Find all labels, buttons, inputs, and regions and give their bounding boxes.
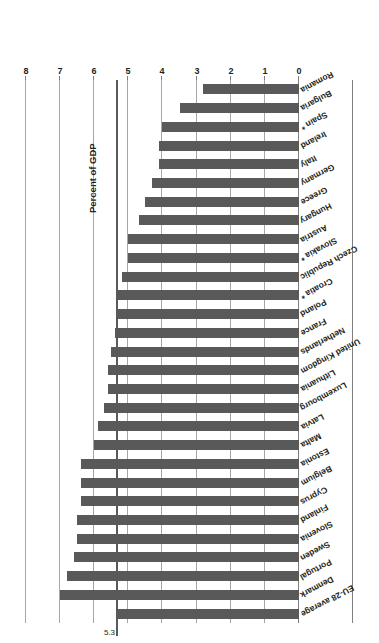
bar-row xyxy=(26,249,299,268)
category-label: Greece xyxy=(301,192,379,211)
bar xyxy=(108,365,299,375)
bar xyxy=(139,215,299,225)
bar-row xyxy=(26,361,299,380)
tick-label-1: 1 xyxy=(258,66,272,76)
bar xyxy=(77,515,299,525)
bar-row xyxy=(26,398,299,417)
bar-row xyxy=(26,529,299,548)
chart-figure-rotated: EU-28 averageDenmarkPortugalSwedenSloven… xyxy=(0,0,379,643)
bar xyxy=(128,234,299,244)
bar xyxy=(111,347,299,357)
bar xyxy=(67,571,299,581)
bar-row xyxy=(26,136,299,155)
bar-row xyxy=(26,380,299,399)
category-label: Bulgaria xyxy=(301,99,379,118)
bar-row xyxy=(26,604,299,623)
bar-row xyxy=(26,511,299,530)
bar-row xyxy=(26,192,299,211)
bar-row xyxy=(26,155,299,174)
bar xyxy=(115,328,299,338)
category-label: Luxembourg xyxy=(301,398,379,417)
bar-row xyxy=(26,567,299,586)
category-label: Austria xyxy=(301,230,379,249)
bar-row xyxy=(26,267,299,286)
bar xyxy=(118,290,299,300)
tick-mark-0 xyxy=(298,76,299,80)
category-label: EU-28 average xyxy=(301,604,379,623)
tick-mark-2 xyxy=(230,76,231,80)
category-label: Estonia xyxy=(301,455,379,474)
tick-label-7: 7 xyxy=(53,66,67,76)
bar-row xyxy=(26,455,299,474)
category-label: Latvia xyxy=(301,417,379,436)
category-label: Germany xyxy=(301,174,379,193)
bar xyxy=(81,496,299,506)
bar xyxy=(118,309,299,319)
tick-label-0: 0 xyxy=(292,66,306,76)
bar-row xyxy=(26,342,299,361)
bar xyxy=(60,590,299,600)
tick-mark-6 xyxy=(93,76,94,80)
bar-row xyxy=(26,211,299,230)
bar-row xyxy=(26,305,299,324)
bar xyxy=(163,122,300,132)
category-label: Croatia * xyxy=(301,286,379,305)
category-label-text: Italy xyxy=(299,153,318,169)
category-label: Ireland xyxy=(301,136,379,155)
value-axis: 012345678 xyxy=(26,40,299,80)
bar xyxy=(77,534,299,544)
bar-row xyxy=(26,417,299,436)
bar-row xyxy=(26,436,299,455)
category-label: France xyxy=(301,323,379,342)
category-label: Poland xyxy=(301,305,379,324)
bar xyxy=(94,440,299,450)
category-label: Slovakia * xyxy=(301,249,379,268)
category-label: Czech Republic xyxy=(301,267,379,286)
tick-label-3: 3 xyxy=(190,66,204,76)
bar xyxy=(122,272,299,282)
tick-label-4: 4 xyxy=(156,66,170,76)
category-label: Malta xyxy=(301,436,379,455)
bar xyxy=(145,197,299,207)
category-label: Lithuania xyxy=(301,380,379,399)
bar xyxy=(81,459,299,469)
category-label: Cyprus xyxy=(301,492,379,511)
category-label: Italy xyxy=(301,155,379,174)
bar-row xyxy=(26,473,299,492)
category-label: United Kingdom xyxy=(301,361,379,380)
bar-row xyxy=(26,80,299,99)
bar-row xyxy=(26,99,299,118)
bar-row xyxy=(26,586,299,605)
bar-row xyxy=(26,548,299,567)
category-label: Slovenia xyxy=(301,529,379,548)
tick-label-5: 5 xyxy=(121,66,135,76)
category-label: Finland xyxy=(301,511,379,530)
tick-mark-3 xyxy=(196,76,197,80)
category-axis-labels: EU-28 averageDenmarkPortugalSwedenSloven… xyxy=(299,80,379,623)
tick-mark-5 xyxy=(127,76,128,80)
category-label: Denmark xyxy=(301,586,379,605)
tick-mark-1 xyxy=(264,76,265,80)
category-label: Netherlands xyxy=(301,342,379,361)
reference-line-label: 5.3 xyxy=(104,628,115,637)
bar-row xyxy=(26,492,299,511)
bar-row xyxy=(26,286,299,305)
category-label: Hungary xyxy=(301,211,379,230)
percent-of-gdp-bar-chart: EU-28 averageDenmarkPortugalSwedenSloven… xyxy=(0,0,379,643)
tick-label-6: 6 xyxy=(87,66,101,76)
tick-mark-4 xyxy=(162,76,163,80)
plot-area: 5.3 xyxy=(26,80,299,623)
tick-mark-8 xyxy=(25,76,26,80)
reference-line xyxy=(116,80,118,636)
tick-label-2: 2 xyxy=(224,66,238,76)
category-label: Romania xyxy=(301,80,379,99)
bar xyxy=(98,421,299,431)
category-label: Portugal xyxy=(301,567,379,586)
bar xyxy=(152,178,299,188)
bar-row xyxy=(26,230,299,249)
bar xyxy=(118,609,299,619)
bar xyxy=(108,384,299,394)
bar-row xyxy=(26,323,299,342)
bar-row xyxy=(26,117,299,136)
category-label: Sweden xyxy=(301,548,379,567)
